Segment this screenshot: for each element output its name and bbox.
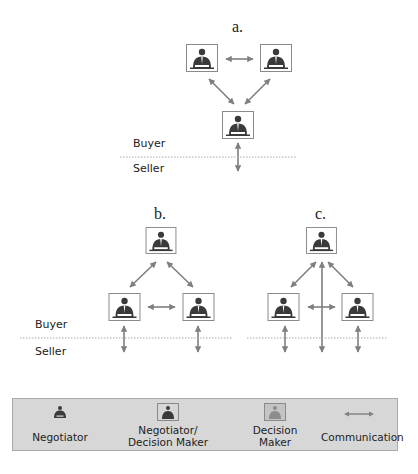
legend: Negotiator Negotiator/ Decision Maker De… [12, 398, 398, 451]
buyer-label: Buyer [133, 137, 165, 150]
diagram-a [120, 45, 297, 172]
legend-label: Communication [321, 431, 397, 443]
legend-item-negotiator-decision-maker: Negotiator/ Decision Maker [123, 399, 213, 452]
negotiator-icon [52, 404, 68, 420]
legend-label: Negotiator [25, 431, 95, 443]
diagram-a-title: a. [232, 18, 243, 36]
negotiator-decision-maker-icon [157, 403, 179, 421]
buyer-label: Buyer [35, 318, 67, 331]
negotiator-decision-maker-icon [261, 45, 292, 72]
negotiator-icon [342, 294, 373, 321]
legend-item-communication: Communication [321, 399, 397, 452]
legend-label-line2: Maker [245, 436, 305, 448]
diagram-c [247, 227, 388, 352]
negotiator-decision-maker-icon [187, 45, 218, 72]
legend-label-line1: Negotiator/ [123, 424, 213, 436]
legend-label-line1: Decision [245, 424, 305, 436]
seller-label: Seller [133, 162, 164, 175]
legend-item-negotiator: Negotiator [25, 399, 95, 452]
seller-label: Seller [35, 345, 66, 358]
decision-maker-icon [264, 403, 286, 421]
decision-maker-icon [307, 227, 337, 253]
legend-label-line2: Decision Maker [123, 436, 213, 448]
negotiator-icon [109, 294, 140, 321]
legend-item-decision-maker: Decision Maker [245, 399, 305, 452]
communication-arrow-icon [344, 409, 374, 419]
diagram-b [20, 227, 233, 352]
negotiator-decision-maker-icon [223, 112, 254, 139]
negotiator-icon [183, 294, 214, 321]
negotiator-icon [268, 294, 299, 321]
diagram-b-title: b. [154, 205, 166, 223]
diagram-c-title: c. [315, 205, 326, 223]
decision-maker-icon [146, 227, 176, 253]
